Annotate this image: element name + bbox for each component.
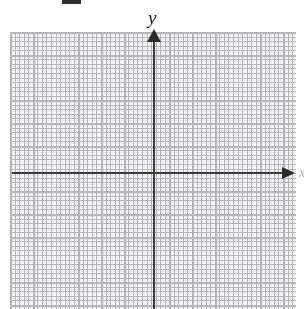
coordinate-plane-figure: y x: [0, 0, 304, 309]
x-axis-line: [12, 172, 284, 174]
y-axis-label: y: [148, 8, 156, 27]
y-axis-line: [153, 40, 155, 309]
arrow-up-icon: [147, 29, 161, 42]
cropped-text-fragment: [62, 0, 81, 4]
x-axis-label: x: [299, 166, 304, 180]
arrow-right-icon: [282, 167, 295, 179]
